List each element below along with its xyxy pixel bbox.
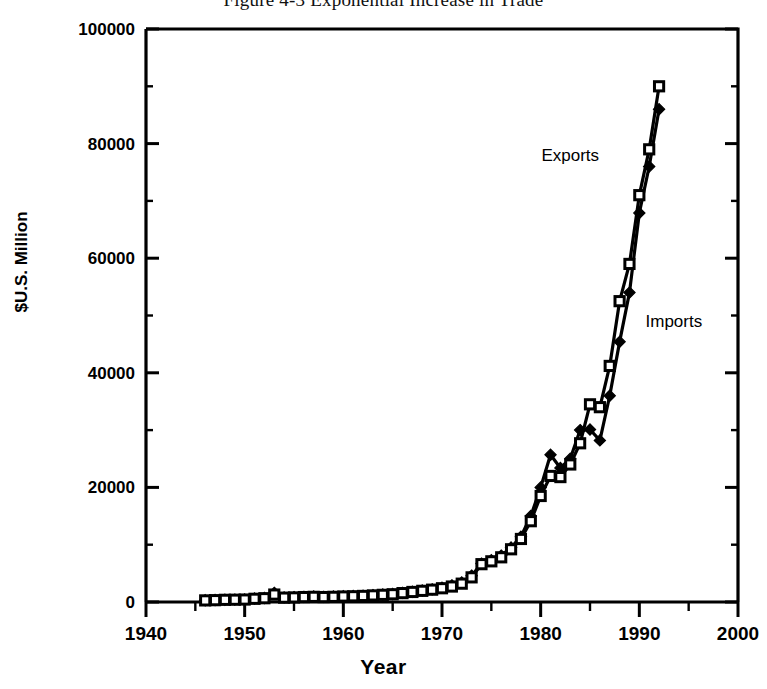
y-tick-label: 100000	[78, 20, 135, 39]
data-point	[516, 534, 525, 543]
data-point	[280, 593, 289, 602]
data-point	[260, 594, 269, 603]
data-point	[201, 596, 210, 605]
series-line-exports	[205, 109, 659, 600]
series-markers-exports	[200, 104, 665, 606]
data-point	[230, 595, 239, 604]
x-tick-label: 1980	[520, 623, 562, 644]
data-point	[220, 595, 229, 604]
chart-plot-area: 020000400006000080000100000 194019501960…	[0, 0, 767, 689]
data-point	[408, 587, 417, 596]
data-point	[595, 403, 604, 412]
data-point	[210, 596, 219, 605]
x-tick-label: 1960	[322, 623, 364, 644]
data-point	[457, 579, 466, 588]
data-point	[437, 584, 446, 593]
data-point	[418, 586, 427, 595]
data-point	[605, 361, 614, 370]
y-tick-label: 80000	[88, 135, 135, 154]
data-point	[604, 390, 615, 401]
data-point	[299, 592, 308, 601]
data-point	[614, 336, 625, 347]
data-point	[447, 582, 456, 591]
data-point	[309, 592, 318, 601]
data-point	[329, 592, 338, 601]
data-point	[378, 590, 387, 599]
series-annotation: Imports	[646, 312, 703, 331]
data-point	[654, 82, 663, 91]
y-tick-label: 40000	[88, 364, 135, 383]
data-point	[526, 517, 535, 526]
data-point	[270, 590, 279, 599]
data-point	[645, 145, 654, 154]
series-annotation: Exports	[541, 146, 599, 165]
data-point	[585, 400, 594, 409]
x-tick-label: 1950	[224, 623, 266, 644]
data-point	[487, 557, 496, 566]
x-axis-tick-labels: 1940195019601970198019902000	[125, 623, 759, 644]
x-tick-label: 1970	[421, 623, 463, 644]
data-point	[349, 592, 358, 601]
data-point	[388, 590, 397, 599]
data-point	[477, 560, 486, 569]
data-point	[368, 591, 377, 600]
data-point	[506, 545, 515, 554]
data-point	[289, 593, 298, 602]
figure-container: Figure 4-3 Exponential Increase in Trade…	[0, 0, 767, 689]
data-point	[398, 589, 407, 598]
data-point	[556, 472, 565, 481]
data-point	[339, 592, 348, 601]
x-tick-label: 1940	[125, 623, 167, 644]
data-point	[358, 591, 367, 600]
data-point	[566, 460, 575, 469]
y-tick-label: 0	[126, 593, 135, 612]
data-point	[250, 594, 259, 603]
data-point	[615, 297, 624, 306]
data-point	[546, 471, 555, 480]
data-point	[576, 439, 585, 448]
y-tick-label: 60000	[88, 249, 135, 268]
data-point	[625, 259, 634, 268]
x-tick-label: 2000	[717, 623, 759, 644]
data-point	[319, 592, 328, 601]
x-tick-label: 1990	[618, 623, 660, 644]
data-point	[467, 573, 476, 582]
data-point	[497, 553, 506, 562]
data-point	[428, 585, 437, 594]
y-tick-label: 20000	[88, 478, 135, 497]
data-point	[635, 191, 644, 200]
y-axis-tick-labels: 020000400006000080000100000	[78, 20, 135, 612]
data-point	[536, 491, 545, 500]
data-point	[240, 595, 249, 604]
